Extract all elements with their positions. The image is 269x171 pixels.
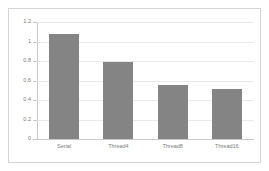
chart-frame: 00.20.40.60.811.2 SerialThread4Thread8Th… bbox=[8, 8, 261, 163]
y-axis-tick-mark bbox=[33, 81, 37, 82]
x-axis-tick-label: Thread16 bbox=[215, 144, 239, 150]
x-axis-tick-label: Thread8 bbox=[162, 144, 183, 150]
y-axis-tick-mark bbox=[33, 100, 37, 101]
y-axis-tick-mark bbox=[33, 42, 37, 43]
gridline bbox=[37, 139, 254, 140]
plot-area bbox=[37, 22, 254, 139]
x-axis-tick-label: Thread4 bbox=[108, 144, 129, 150]
y-axis-tick-label: 0.4 bbox=[9, 97, 31, 103]
y-axis-tick-label: 0.6 bbox=[9, 78, 31, 84]
y-axis-tick-mark bbox=[33, 61, 37, 62]
y-axis-tick-label: 0.2 bbox=[9, 117, 31, 123]
y-axis-tick-label: 0.8 bbox=[9, 58, 31, 64]
y-axis-tick-mark bbox=[33, 139, 37, 140]
bar bbox=[103, 62, 133, 139]
y-axis-tick-mark bbox=[33, 120, 37, 121]
bar bbox=[212, 89, 242, 139]
y-axis-tick-label: 0 bbox=[9, 136, 31, 142]
y-axis-tick-label: 1.2 bbox=[9, 19, 31, 25]
bar bbox=[49, 34, 79, 139]
bar bbox=[158, 85, 188, 139]
y-axis-tick-label: 1 bbox=[9, 39, 31, 45]
bar-series bbox=[37, 22, 254, 139]
x-axis-tick-label: Serial bbox=[57, 144, 71, 150]
y-axis-tick-mark bbox=[33, 22, 37, 23]
